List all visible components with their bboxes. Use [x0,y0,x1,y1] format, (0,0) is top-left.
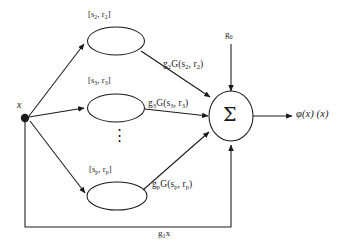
input-node-dot [21,114,29,122]
edge-input-to-unit-3 [30,121,85,193]
edge-label-unit-1: g2G(s2, r2) [163,60,203,70]
unit-1-center-width-label: [s2, r2] [88,10,111,19]
output-label: φ(x) (x) [296,109,329,120]
unit-ellipse-3 [87,182,147,210]
edge-input-to-unit-1 [29,44,84,116]
sum-symbol: Σ [223,105,237,124]
feedback-label: g1x [158,229,170,238]
bias-label: g0 [225,30,233,39]
unit-2-center-width-label: [s3, r3] [88,76,111,85]
unit-ellipse-1 [88,27,145,55]
edge-unit-1-to-sum [141,51,210,97]
edge-unit-2-to-sum [145,109,208,116]
vertical-ellipsis: ⋮ [112,128,127,143]
edge-input-to-unit-2 [29,108,84,117]
unit-ellipse-2 [88,94,145,122]
edge-label-unit-2: g3G(s3, r3) [148,99,188,109]
input-label: x [17,100,22,110]
diagram-canvas: x [s2, r2] [s3, r3] [sp, rp] ⋮ g2G(s2, r… [0,0,346,242]
edge-label-unit-3: gpG(sp, rp) [152,180,192,190]
edge-feedback-loop [25,122,231,227]
unit-3-center-width-label: [sp, rp] [89,165,112,174]
diagram-vector-layer [0,0,346,242]
